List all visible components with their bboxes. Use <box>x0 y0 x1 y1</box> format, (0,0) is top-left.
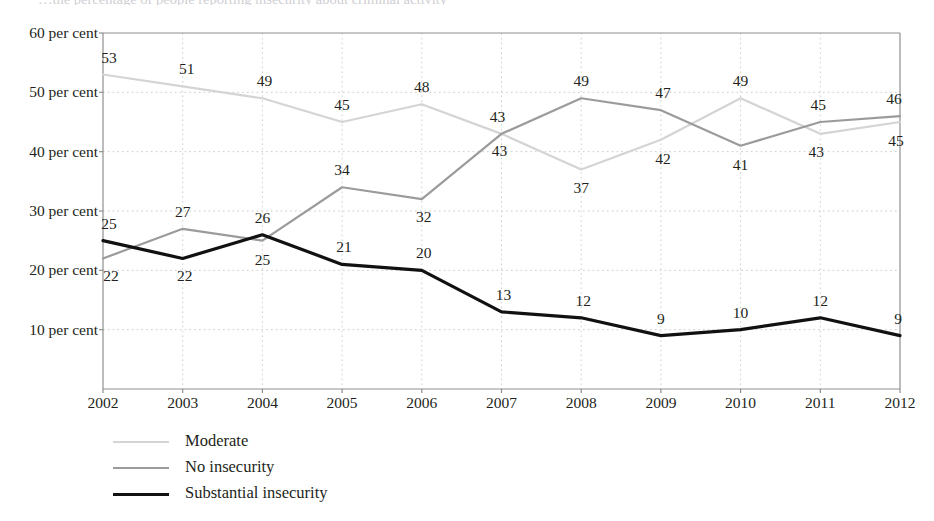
data-label-moderate-2008: 37 <box>573 179 589 197</box>
data-label-substantial-insecurity-2006: 20 <box>416 244 432 262</box>
data-label-moderate-2012: 45 <box>888 132 904 150</box>
legend-item-label: Moderate <box>185 430 248 452</box>
data-label-moderate-2005: 45 <box>334 96 350 114</box>
x-axis-label-2005: 2005 <box>327 394 358 412</box>
data-label-substantial-insecurity-2002: 25 <box>101 215 117 233</box>
legend-line-swatch <box>113 493 169 496</box>
data-label-substantial-insecurity-2011: 12 <box>813 292 829 310</box>
data-label-moderate-2003: 51 <box>179 60 195 78</box>
data-label-no-insecurity-2012: 46 <box>886 90 902 108</box>
y-axis-label-60: 60 per cent <box>6 24 98 42</box>
data-label-moderate-2007: 43 <box>492 142 508 160</box>
legend-line-swatch <box>113 467 169 469</box>
data-label-moderate-2011: 43 <box>809 143 825 161</box>
data-label-moderate-2004: 49 <box>257 72 273 90</box>
x-axis-label-2012: 2012 <box>885 394 916 412</box>
data-label-substantial-insecurity-2004: 26 <box>255 209 271 227</box>
x-axis-label-2011: 2011 <box>805 394 835 412</box>
data-label-substantial-insecurity-2010: 10 <box>733 304 749 322</box>
y-axis-label-50: 50 per cent <box>6 83 98 101</box>
data-label-moderate-2009: 42 <box>655 150 671 168</box>
data-label-no-insecurity-2002: 22 <box>103 267 119 285</box>
y-axis-label-40: 40 per cent <box>6 143 98 161</box>
data-label-moderate-2006: 48 <box>414 78 430 96</box>
data-label-no-insecurity-2007: 43 <box>490 108 506 126</box>
x-axis-label-2010: 2010 <box>725 394 756 412</box>
data-label-substantial-insecurity-2005: 21 <box>336 238 352 256</box>
legend-line-swatch <box>113 441 169 443</box>
y-axis-label-30: 30 per cent <box>6 202 98 220</box>
x-axis-label-2003: 2003 <box>167 394 198 412</box>
y-axis-label-20: 20 per cent <box>6 261 98 279</box>
figure-container: …the percentage of people reporting inse… <box>0 0 934 521</box>
data-label-no-insecurity-2005: 34 <box>334 161 350 179</box>
data-label-substantial-insecurity-2009: 9 <box>657 310 665 328</box>
x-axis-label-2006: 2006 <box>406 394 437 412</box>
y-axis-label-10: 10 per cent <box>6 321 98 339</box>
data-label-moderate-2010: 49 <box>733 72 749 90</box>
data-label-moderate-2002: 53 <box>101 49 117 67</box>
data-label-substantial-insecurity-2003: 22 <box>177 267 193 285</box>
x-axis-label-2007: 2007 <box>486 394 517 412</box>
legend-item-label: No insecurity <box>185 456 274 478</box>
x-axis-label-2004: 2004 <box>247 394 278 412</box>
x-axis-label-2008: 2008 <box>566 394 597 412</box>
x-axis-label-2009: 2009 <box>645 394 676 412</box>
data-label-substantial-insecurity-2008: 12 <box>575 292 591 310</box>
data-label-substantial-insecurity-2012: 9 <box>894 310 902 328</box>
data-label-no-insecurity-2008: 49 <box>573 72 589 90</box>
data-label-substantial-insecurity-2007: 13 <box>496 286 512 304</box>
data-label-no-insecurity-2003: 27 <box>175 203 191 221</box>
data-label-no-insecurity-2004: 25 <box>255 251 271 269</box>
x-axis-label-2002: 2002 <box>88 394 119 412</box>
data-label-no-insecurity-2010: 41 <box>733 156 749 174</box>
data-label-no-insecurity-2009: 47 <box>655 84 671 102</box>
data-label-no-insecurity-2006: 32 <box>416 208 432 226</box>
data-label-no-insecurity-2011: 45 <box>811 96 827 114</box>
legend-item-label: Substantial insecurity <box>185 482 328 504</box>
